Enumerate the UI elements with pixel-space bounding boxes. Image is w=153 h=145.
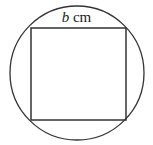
side-label: b cm [0,9,153,25]
square [31,28,126,120]
side-unit: cm [73,9,91,25]
side-variable: b [62,9,70,25]
